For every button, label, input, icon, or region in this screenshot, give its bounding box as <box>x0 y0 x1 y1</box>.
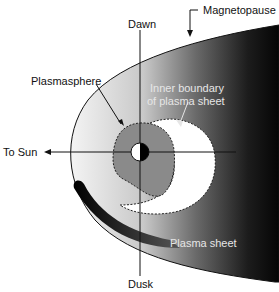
to-sun-arrowhead <box>44 149 51 155</box>
dusk-label: Dusk <box>128 278 153 290</box>
inner-boundary-label-2: of plasma sheet <box>147 95 225 107</box>
plasmasphere-label: Plasmasphere <box>31 75 101 87</box>
inner-boundary-label-1: Inner boundary <box>150 82 224 94</box>
to-sun-label: To Sun <box>3 146 37 158</box>
magnetosphere-diagram <box>0 0 279 292</box>
magnetopause-label: Magnetopause <box>203 4 276 16</box>
magnetopause-arrowhead <box>187 30 193 37</box>
dawn-label: Dawn <box>128 18 156 30</box>
plasma-sheet-label: Plasma sheet <box>170 237 237 249</box>
